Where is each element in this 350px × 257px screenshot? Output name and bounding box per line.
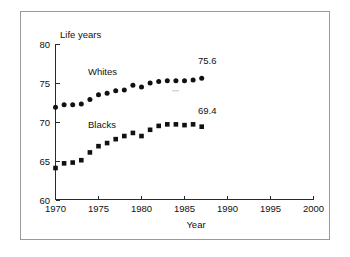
x-tick-label-1975: 1975 (88, 203, 109, 214)
series-label-blacks: Blacks (88, 119, 116, 130)
data-point-whites (79, 102, 84, 107)
data-point-whites (139, 84, 144, 89)
chart-plot-area: 80 75 70 65 60 Life years 1970 1975 1980… (0, 0, 350, 257)
y-axis-title: Life years (60, 29, 101, 40)
x-tick-label-1970: 1970 (45, 203, 66, 214)
data-point-whites (182, 78, 187, 83)
data-point-blacks (113, 137, 118, 142)
data-point-whites (130, 83, 135, 88)
data-point-whites (87, 97, 92, 102)
data-point-blacks (62, 161, 67, 166)
y-tick-label-75: 75 (39, 78, 50, 89)
data-point-whites (173, 78, 178, 83)
data-point-whites (199, 76, 204, 81)
data-point-blacks (148, 128, 153, 133)
data-point-whites (70, 102, 75, 107)
data-point-blacks (156, 124, 161, 129)
data-point-blacks (79, 158, 84, 163)
x-tick-label-1980: 1980 (131, 203, 152, 214)
data-point-blacks (139, 134, 144, 139)
value-label-whites-end: 75.6 (198, 55, 217, 66)
data-point-blacks (96, 144, 101, 149)
x-tick-label-1990: 1990 (217, 203, 238, 214)
value-label-blacks-end: 69.4 (198, 105, 217, 116)
data-point-whites (105, 91, 110, 96)
y-tick-label-70: 70 (39, 117, 50, 128)
data-point-blacks (105, 141, 110, 146)
data-point-blacks (174, 122, 179, 127)
data-point-blacks (182, 123, 187, 128)
series-whites-markers (53, 76, 204, 110)
series-blacks-markers (53, 122, 204, 170)
data-point-blacks (53, 166, 58, 171)
data-point-whites (156, 79, 161, 84)
y-tick-label-80: 80 (39, 39, 50, 50)
data-point-whites (62, 102, 67, 107)
series-label-whites: Whites (88, 66, 117, 77)
data-point-blacks (199, 124, 204, 129)
data-point-blacks (88, 150, 93, 155)
data-point-blacks (165, 122, 170, 127)
data-point-whites (165, 78, 170, 83)
data-point-whites (96, 92, 101, 97)
data-point-blacks (131, 131, 136, 136)
data-point-blacks (191, 122, 196, 127)
data-point-whites (191, 77, 196, 82)
data-point-blacks (70, 160, 75, 165)
x-tick-label-1985: 1985 (174, 203, 195, 214)
figure-container: 80 75 70 65 60 Life years 1970 1975 1980… (0, 0, 350, 257)
scan-artifact (172, 90, 179, 92)
data-point-whites (113, 88, 118, 93)
x-tick-label-1995: 1995 (260, 203, 281, 214)
data-point-whites (122, 88, 127, 93)
data-point-whites (148, 81, 153, 86)
y-tick-label-65: 65 (39, 156, 50, 167)
data-point-blacks (122, 134, 127, 139)
x-axis-title: Year (186, 219, 205, 230)
y-axis-ticks (56, 44, 61, 200)
x-tick-label-2000: 2000 (303, 203, 324, 214)
data-point-whites (53, 105, 58, 110)
